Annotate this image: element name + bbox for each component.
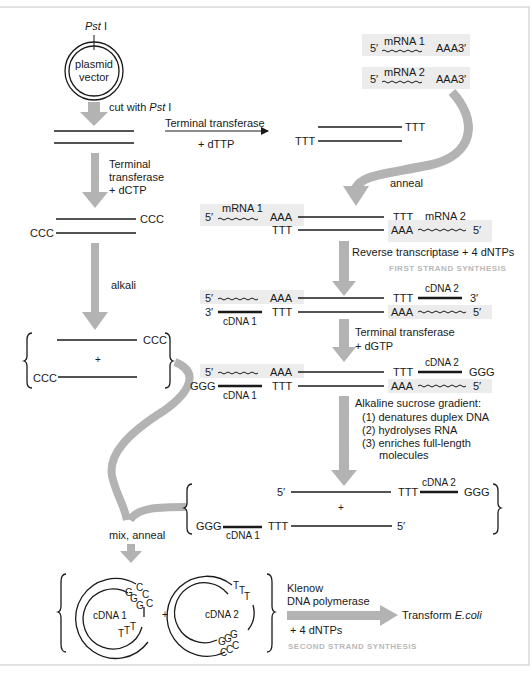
svg-text:cDNA 1: cDNA 1 <box>223 390 257 401</box>
arrow-alkali <box>82 243 108 330</box>
svg-text:3′: 3′ <box>458 42 466 54</box>
mrna1-input: 5′ mRNA 1 AAA 3′ <box>362 34 470 56</box>
arrow-mix <box>120 544 142 563</box>
sucrose-item: (2) hydrolyses RNA <box>362 424 458 436</box>
svg-text:GGG: GGG <box>469 366 495 378</box>
ttt-label: TTT <box>405 121 425 133</box>
brace-left-ccc <box>24 333 32 388</box>
step-anneal-label: anneal <box>390 177 423 189</box>
svg-text:5′: 5′ <box>205 366 213 378</box>
svg-text:5′: 5′ <box>205 211 213 223</box>
svg-text:AAA: AAA <box>391 306 414 318</box>
svg-text:3′: 3′ <box>470 292 478 304</box>
svg-text:cDNA 1: cDNA 1 <box>93 610 127 621</box>
svg-text:TTT: TTT <box>393 292 413 304</box>
step-dgtp-line1: Terminal transferase <box>355 326 455 338</box>
sucrose-item: (3) enriches full-length <box>362 437 471 449</box>
cdna2-label: cDNA 2 <box>422 477 456 488</box>
svg-text:TTT: TTT <box>393 366 413 378</box>
cdna1-label: cDNA 1 <box>226 530 260 541</box>
svg-text:3′: 3′ <box>458 73 466 85</box>
ggg-label: GGG <box>196 520 222 532</box>
svg-text:5′: 5′ <box>205 292 213 304</box>
ccc-label: CCC <box>30 227 54 239</box>
svg-text:G: G <box>230 629 238 640</box>
svg-text:mRNA 1: mRNA 1 <box>222 202 263 214</box>
svg-text:5′: 5′ <box>370 73 378 85</box>
svg-text:TTT: TTT <box>272 306 292 318</box>
plasmid-vector: plasmid vector <box>65 42 123 100</box>
svg-text:G: G <box>136 600 144 611</box>
first-strand-caption: FIRST STRAND SYNTHESIS <box>389 264 506 273</box>
plus-sign: + <box>95 354 101 365</box>
five-prime-label: 5′ <box>397 520 405 532</box>
svg-text:AAA: AAA <box>436 42 459 54</box>
step-klenow-line1: Klenow <box>287 582 323 594</box>
svg-text:AAA: AAA <box>391 224 414 236</box>
recombinant-cdna1: cDNA 1 G G G C C C T T T <box>76 578 154 658</box>
brace-left-ss-cdna <box>184 484 192 534</box>
annealed-complex: 5′ mRNA 1 AAA TTT TTT AAA mRNA 2 5′ <box>200 202 492 242</box>
cdna-cloning-diagram: Pst I plasmid vector cut with Pst I Term… <box>0 0 532 673</box>
svg-text:cDNA 2: cDNA 2 <box>425 357 459 368</box>
step-dctp-line3: + dCTP <box>109 184 147 196</box>
sucrose-item: molecules <box>379 449 429 461</box>
arrow-sucrose-gradient <box>331 396 357 486</box>
svg-text:cDNA 1: cDNA 1 <box>223 316 257 327</box>
ccc-label: CCC <box>140 213 164 225</box>
step-dttp-line1: Terminal transferase <box>165 117 265 129</box>
mrna2-input: 5′ mRNA 2 AAA 3′ <box>362 66 470 89</box>
svg-text:T: T <box>244 591 250 602</box>
svg-text:TTT: TTT <box>272 224 292 236</box>
svg-text:5′: 5′ <box>370 42 378 54</box>
svg-text:TTT: TTT <box>272 380 292 392</box>
second-strand-caption: SECOND STRAND SYNTHESIS <box>288 642 417 651</box>
ttt-label: TTT <box>268 520 288 532</box>
ccc-label: CCC <box>143 334 167 346</box>
arrow-tt-dgtp <box>332 319 356 362</box>
plasmid-label-line2: vector <box>79 71 109 83</box>
svg-text:mRNA 1: mRNA 1 <box>384 35 425 47</box>
svg-text:AAA: AAA <box>270 211 293 223</box>
plus-sign: + <box>338 502 344 513</box>
arrow-anneal-head <box>343 186 369 206</box>
curved-arrow-cdna-to-mix <box>130 507 186 520</box>
step-dctp-line2: transferase <box>109 171 164 183</box>
svg-text:cDNA 2: cDNA 2 <box>425 283 459 294</box>
svg-text:AAA: AAA <box>270 292 293 304</box>
svg-text:5′: 5′ <box>473 380 481 392</box>
transform-label: Transform E.coli <box>402 609 482 621</box>
svg-text:mRNA 2: mRNA 2 <box>384 66 425 78</box>
sucrose-title: Alkaline sucrose gradient: <box>355 397 481 409</box>
step-cut-label: cut with Pst I <box>109 101 171 113</box>
step-rt-label: Reverse transcriptase + 4 dNTPs <box>352 246 515 258</box>
step-dgtp-line2: + dGTP <box>355 340 393 352</box>
curved-arrow-vector-to-mix <box>112 362 190 520</box>
svg-text:T: T <box>130 621 136 632</box>
sucrose-item: (1) denatures duplex DNA <box>362 411 490 423</box>
step-dctp-line1: Terminal <box>109 158 151 170</box>
step-alkali-label: alkali <box>111 279 136 291</box>
ttt-label: TTT <box>398 486 418 498</box>
svg-text:C: C <box>232 640 239 651</box>
ccc-label: CCC <box>33 372 57 384</box>
svg-text:3′: 3′ <box>205 306 213 318</box>
step-klenow-line3: + 4 dNTPs <box>290 624 343 636</box>
step-klenow-line2: DNA polymerase <box>287 595 370 607</box>
svg-text:5′: 5′ <box>473 224 481 236</box>
ggg-label: GGG <box>464 486 490 498</box>
svg-text:AAA: AAA <box>391 380 414 392</box>
brace-right-ss-cdna <box>493 484 501 534</box>
pst-site-label: Pst I <box>85 20 107 32</box>
svg-text:mRNA 2: mRNA 2 <box>425 210 466 222</box>
step-dttp-line2: + dTTP <box>198 138 234 150</box>
arrow-tt-dctp <box>82 153 108 208</box>
plasmid-label-line1: plasmid <box>75 58 113 70</box>
g-tailed-product: 5′ AAA GGG cDNA 1 TTT TTT cDNA 2 GGG AAA… <box>190 357 495 401</box>
five-prime-label: 5′ <box>277 486 285 498</box>
arrow-cut <box>80 102 108 126</box>
svg-text:C: C <box>146 598 153 609</box>
svg-text:GGG: GGG <box>190 380 216 392</box>
brace-right-recombinants <box>267 574 275 652</box>
arrow-klenow <box>287 605 398 626</box>
